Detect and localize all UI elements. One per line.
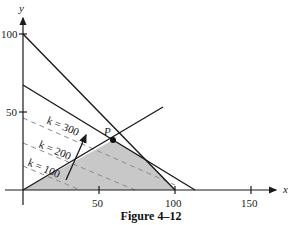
level-label-100: k = 100: [26, 156, 62, 180]
figure-caption: Figure 4–12: [0, 209, 302, 224]
level-label-200: k = 200: [37, 138, 73, 162]
x-tick-label-100: 100: [165, 197, 182, 209]
figure-canvas: y x 50 100 150 100 50 P k = 300 k = 200 …: [0, 0, 302, 225]
y-tick-label-50: 50: [6, 106, 18, 118]
y-tick-label-100: 100: [1, 28, 18, 40]
x-tick-label-50: 50: [92, 197, 104, 209]
x-axis-label: x: [282, 183, 288, 195]
point-label-p: P: [103, 125, 111, 137]
optimal-point: [110, 137, 116, 143]
y-axis-label: y: [18, 2, 24, 14]
x-tick-label-150: 150: [241, 197, 258, 209]
